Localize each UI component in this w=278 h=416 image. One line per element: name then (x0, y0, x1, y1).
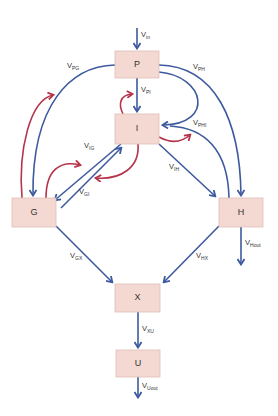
node-label-I: I (136, 123, 139, 133)
flow-label-PI: VPI (141, 85, 151, 95)
node-X: X (115, 284, 160, 312)
node-label-X: X (134, 292, 140, 302)
node-U: U (116, 350, 160, 377)
node-G: G (12, 198, 56, 227)
feedback-arrow-I-to-PHI (159, 135, 190, 141)
flow-arrow-GX (56, 226, 112, 282)
flow-arrow-HX (164, 226, 219, 282)
flow-label-HX: VHX (196, 251, 209, 261)
flow-label-IG: VIG (84, 141, 94, 151)
flow-arrow-PG (33, 65, 115, 195)
flow-label-Uout: VUout (142, 381, 158, 391)
node-P: P (115, 51, 159, 78)
node-label-H: H (238, 207, 245, 217)
feedback-arrow-I-to-PI (120, 94, 132, 114)
feedback-arrow-I-to-GI (96, 144, 138, 178)
node-label-U: U (135, 358, 142, 368)
node-label-P: P (134, 59, 140, 69)
node-H: H (219, 198, 263, 227)
flow-label-GI: VGI (79, 187, 89, 197)
flow-label-IH: VIH (169, 162, 179, 172)
flow-label-in: Vin (141, 30, 150, 40)
flow-label-PHI: VPHI (193, 118, 206, 128)
compartment-flow-diagram: P I G H X U Vin VPI VPG VPH VPHI VIG VGI… (0, 0, 278, 416)
flow-arrow-PH (159, 65, 241, 195)
flow-label-PG: VPG (67, 61, 79, 71)
flow-label-GX: VGX (70, 251, 83, 261)
node-I: I (115, 114, 159, 144)
flow-label-XU: VXU (142, 324, 154, 334)
node-label-G: G (30, 207, 37, 217)
flow-label-Hout: VHout (245, 238, 261, 248)
flow-label-PH: VPH (193, 62, 205, 72)
flow-arrow-IH (159, 144, 215, 196)
